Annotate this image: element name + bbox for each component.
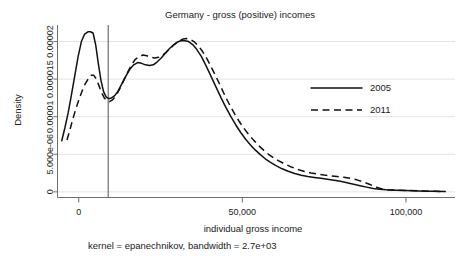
x-axis-ticks: 050,000100,000 (76, 198, 422, 217)
gridlines (58, 42, 456, 192)
y-tick-label-4: 0.00002 (45, 25, 55, 58)
x-tick-label-2: 100,000 (390, 207, 423, 217)
y-tick-label-0: 0 (45, 189, 55, 194)
y-tick-label-2: 0.00001 (45, 100, 55, 133)
y-axis-ticks: 05.000e-060.000010.0000150.00002 (45, 25, 58, 194)
chart-footnote: kernel = epanechnikov, bandwidth = 2.7e+… (88, 240, 277, 251)
y-tick-label-1: 5.000e-06 (45, 134, 55, 175)
x-tick-label-1: 50,000 (229, 207, 257, 217)
chart-canvas: Germany - gross (positive) incomes 05.00… (0, 0, 469, 256)
chart-title: Germany - gross (positive) incomes (165, 9, 315, 20)
y-tick-label-3: 0.000015 (45, 60, 55, 98)
y-axis-label: Density (12, 94, 23, 126)
legend-label-2005: 2005 (370, 82, 391, 93)
x-tick-label-0: 0 (76, 207, 81, 217)
series-line-2011 (67, 39, 445, 192)
x-axis-label: individual gross income (204, 223, 303, 234)
legend[interactable]: 2005 2011 (311, 82, 391, 115)
legend-label-2011: 2011 (370, 104, 390, 115)
density-plot-figure: Germany - gross (positive) incomes 05.00… (0, 0, 469, 256)
